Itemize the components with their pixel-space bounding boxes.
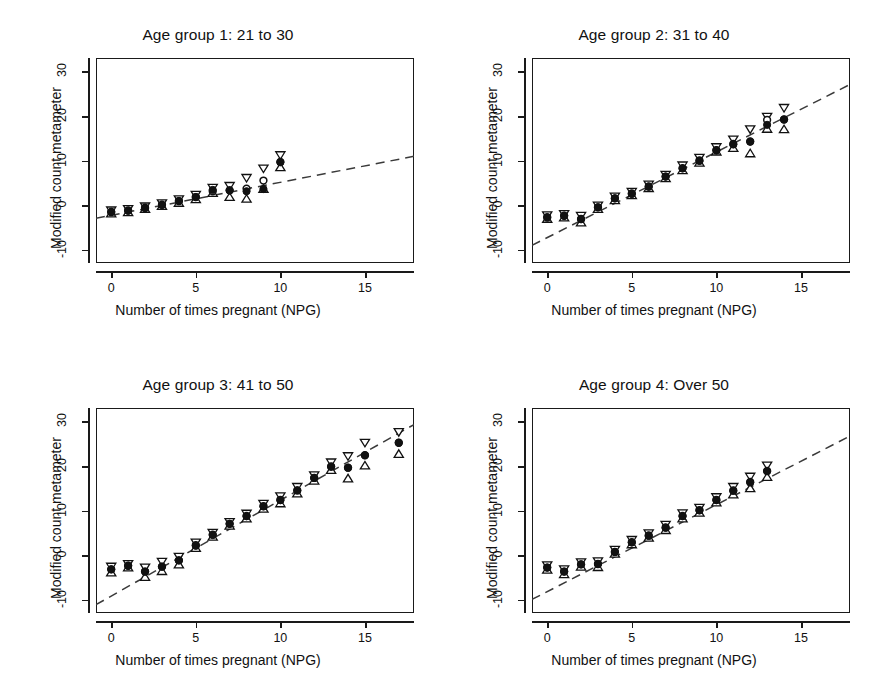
observed-marker: [344, 464, 351, 471]
x-tick-label: 10: [696, 281, 736, 295]
observed-marker: [544, 564, 551, 571]
y-tick: [82, 511, 89, 513]
x-tick-label: 15: [345, 281, 385, 295]
panel-title: Age group 3: 41 to 50: [0, 376, 436, 394]
ci-upper-marker: [259, 165, 268, 173]
observed-marker: [243, 188, 250, 195]
panel-1: Age group 1: 21 to 30-100102030Modified …: [0, 0, 436, 349]
y-tick: [518, 511, 525, 513]
x-tick-label: 5: [176, 631, 216, 645]
plot-canvas: [96, 58, 414, 263]
observed-marker: [679, 513, 686, 520]
ci-lower-marker: [746, 149, 755, 157]
x-tick-label: 15: [781, 631, 821, 645]
x-tick: [716, 621, 718, 628]
x-tick-label: 5: [612, 281, 652, 295]
observed-marker: [713, 147, 720, 154]
observed-marker: [577, 216, 584, 223]
x-tick-label: 15: [781, 281, 821, 295]
observed-marker: [277, 497, 284, 504]
x-axis-title: Number of times pregnant (NPG): [436, 652, 872, 668]
observed-marker: [747, 479, 754, 486]
observed-marker: [361, 452, 368, 459]
observed-marker: [645, 183, 652, 190]
observed-marker: [628, 539, 635, 546]
x-tick: [280, 621, 282, 628]
observed-marker: [561, 212, 568, 219]
observed-marker: [209, 186, 216, 193]
ci-upper-marker: [779, 105, 788, 113]
observed-marker: [260, 503, 267, 510]
panel-title: Age group 2: 31 to 40: [436, 26, 872, 44]
figure-root: Age group 1: 21 to 30-100102030Modified …: [0, 0, 872, 699]
y-axis-title: Modified count metameter: [484, 413, 500, 623]
x-tick-label: 10: [696, 631, 736, 645]
y-tick: [518, 161, 525, 163]
observed-marker: [679, 165, 686, 172]
observed-marker: [611, 548, 618, 555]
ci-upper-marker: [242, 174, 251, 182]
y-tick: [82, 421, 89, 423]
y-tick: [518, 421, 525, 423]
x-tick-label: 0: [91, 281, 131, 295]
observed-marker: [260, 185, 267, 192]
expected-marker: [260, 177, 267, 184]
plot-canvas: [532, 408, 850, 613]
x-tick: [365, 271, 367, 278]
observed-marker: [108, 208, 115, 215]
observed-marker: [696, 157, 703, 164]
y-tick: [518, 71, 525, 73]
x-tick-label: 10: [260, 281, 300, 295]
observed-marker: [577, 561, 584, 568]
observed-marker: [277, 159, 284, 166]
y-tick: [82, 161, 89, 163]
y-tick: [82, 116, 89, 118]
observed-marker: [125, 562, 132, 569]
y-tick: [518, 250, 525, 252]
observed-marker: [747, 138, 754, 145]
x-tick: [547, 271, 549, 278]
observed-marker: [645, 532, 652, 539]
observed-marker: [594, 204, 601, 211]
x-tick-label: 0: [527, 281, 567, 295]
ci-upper-marker: [343, 453, 352, 461]
y-tick: [518, 555, 525, 557]
x-tick-label: 5: [612, 631, 652, 645]
ci-upper-marker: [746, 126, 755, 134]
y-tick: [518, 600, 525, 602]
y-tick: [82, 466, 89, 468]
x-tick: [801, 271, 803, 278]
observed-marker: [611, 195, 618, 202]
y-axis-title: Modified count metameter: [48, 63, 64, 273]
observed-marker: [311, 474, 318, 481]
observed-marker: [662, 524, 669, 531]
observed-marker: [125, 207, 132, 214]
ci-lower-marker: [394, 450, 403, 458]
observed-marker: [158, 201, 165, 208]
panel-4: Age group 4: Over 50-100102030Modified c…: [436, 350, 872, 699]
ci-upper-marker: [360, 439, 369, 447]
x-tick: [111, 621, 113, 628]
observed-marker: [544, 213, 551, 220]
panel-title: Age group 4: Over 50: [436, 376, 872, 394]
observed-marker: [243, 513, 250, 520]
x-tick: [547, 621, 549, 628]
x-tick-label: 0: [91, 631, 131, 645]
y-tick: [82, 600, 89, 602]
plot-canvas: [96, 408, 414, 613]
regression-line: [532, 436, 850, 599]
x-tick: [196, 271, 198, 278]
ci-lower-marker: [360, 461, 369, 469]
ci-lower-marker: [343, 474, 352, 482]
ci-lower-marker: [242, 195, 251, 203]
observed-marker: [294, 487, 301, 494]
x-tick-label: 15: [345, 631, 385, 645]
y-tick: [82, 555, 89, 557]
observed-marker: [141, 205, 148, 212]
y-tick: [518, 205, 525, 207]
observed-marker: [226, 187, 233, 194]
y-tick: [82, 71, 89, 73]
x-tick: [196, 621, 198, 628]
x-tick: [365, 621, 367, 628]
observed-marker: [192, 542, 199, 549]
